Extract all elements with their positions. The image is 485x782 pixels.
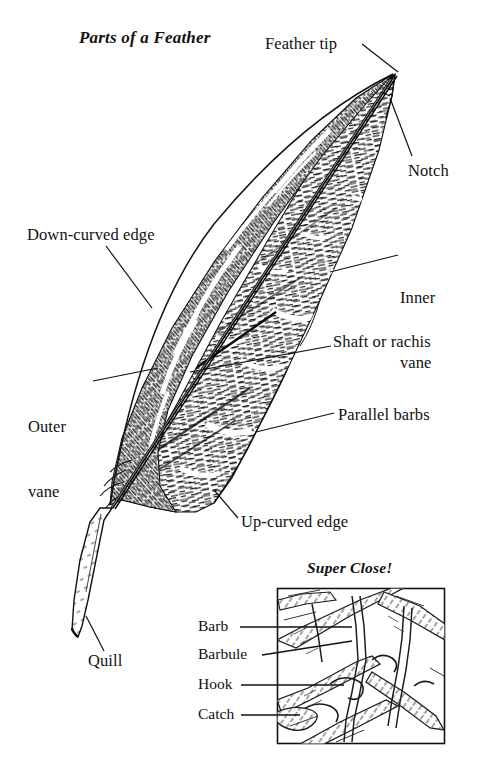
label-inner-vane-line1: Inner — [400, 287, 435, 309]
quill-shape — [72, 508, 112, 637]
leader-parallel-barbs — [256, 413, 334, 432]
inset-super-close — [240, 588, 445, 748]
label-barb: Barb — [198, 617, 228, 635]
label-quill: Quill — [88, 650, 122, 672]
leader-up-curved-edge — [214, 490, 238, 518]
label-hook: Hook — [198, 675, 232, 693]
label-up-curved-edge: Up-curved edge — [241, 511, 348, 533]
label-notch: Notch — [408, 160, 449, 182]
leader-inner-vane — [330, 255, 398, 272]
label-parallel-barbs: Parallel barbs — [338, 404, 430, 426]
label-outer-vane-line1: Outer — [28, 416, 66, 438]
leader-down-curved-edge — [106, 246, 152, 308]
label-inner-vane-line2: vane — [400, 352, 435, 374]
label-outer-vane: Outer vane — [28, 372, 66, 546]
label-outer-vane-line2: vane — [28, 481, 66, 503]
label-catch: Catch — [198, 705, 234, 723]
leader-feather-tip — [362, 44, 398, 72]
inset-title: Super Close! — [307, 559, 393, 577]
label-down-curved-edge: Down-curved edge — [27, 224, 155, 246]
feather-anatomy-diagram: Parts of a Feather Feather tip Notch Dow… — [0, 0, 485, 782]
label-shaft-or-rachis: Shaft or rachis — [333, 331, 431, 353]
label-feather-tip: Feather tip — [265, 33, 337, 55]
leader-notch — [390, 98, 412, 156]
leader-quill — [86, 616, 104, 651]
page-title: Parts of a Feather — [79, 28, 211, 48]
label-barbule: Barbule — [198, 645, 247, 663]
